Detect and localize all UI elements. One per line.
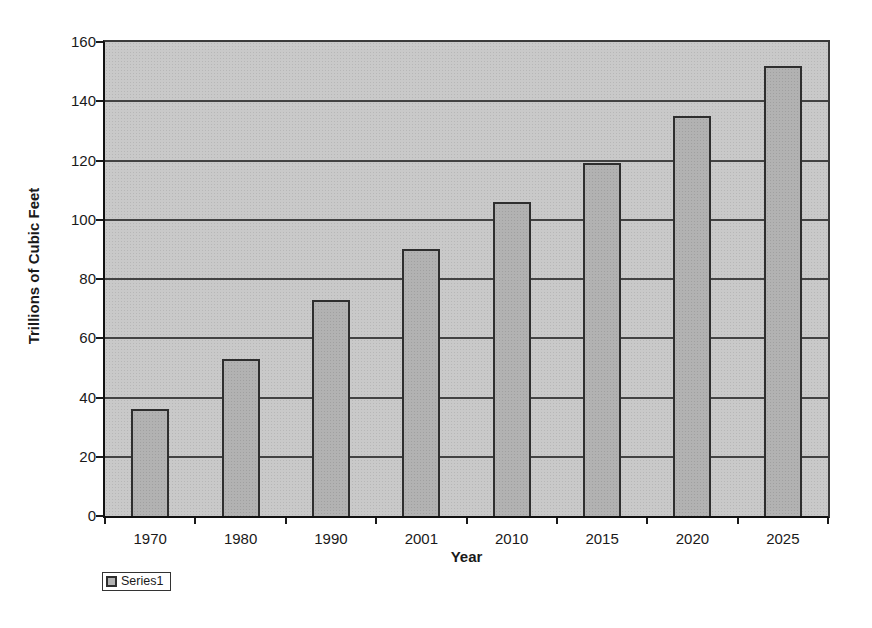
- y-tick-label-20: 20: [38, 449, 96, 465]
- y-tick-label-60: 60: [38, 330, 96, 346]
- x-category-label-2020: 2020: [647, 531, 737, 547]
- y-axis-title: Trillions of Cubic Feet: [25, 188, 42, 345]
- bar-1980: [222, 359, 260, 516]
- y-tick-mark-40: [96, 397, 103, 399]
- y-tick-mark-80: [96, 278, 103, 280]
- x-category-label-2015: 2015: [557, 531, 647, 547]
- x-axis-title: Year: [103, 548, 830, 565]
- y-tick-label-140: 140: [38, 93, 96, 109]
- gridline-y-100: [105, 219, 828, 221]
- y-tick-mark-100: [96, 219, 103, 221]
- gridline-y-140: [105, 100, 828, 102]
- gridline-y-60: [105, 337, 828, 339]
- gridline-y-20: [105, 456, 828, 458]
- y-tick-label-100: 100: [38, 212, 96, 228]
- gridline-y-80: [105, 278, 828, 280]
- y-tick-label-80: 80: [38, 271, 96, 287]
- x-tick-mark-8: [827, 518, 829, 524]
- bar-2001: [402, 249, 440, 516]
- bar-2025: [764, 66, 802, 516]
- bar-2020: [673, 116, 711, 516]
- y-tick-label-160: 160: [38, 34, 96, 50]
- x-category-label-2001: 2001: [376, 531, 466, 547]
- legend-swatch-icon: [106, 576, 117, 587]
- bar-2010: [493, 202, 531, 516]
- plot-area: [103, 40, 830, 518]
- gridline-y-40: [105, 397, 828, 399]
- x-tick-mark-1: [194, 518, 196, 524]
- x-tick-mark-4: [466, 518, 468, 524]
- y-tick-mark-140: [96, 100, 103, 102]
- x-tick-mark-7: [737, 518, 739, 524]
- x-category-label-1980: 1980: [195, 531, 285, 547]
- x-category-label-1970: 1970: [105, 531, 195, 547]
- x-category-label-2010: 2010: [467, 531, 557, 547]
- legend: Series1: [102, 572, 171, 591]
- y-tick-label-40: 40: [38, 390, 96, 406]
- x-tick-mark-6: [646, 518, 648, 524]
- x-tick-mark-2: [285, 518, 287, 524]
- y-tick-label-0: 0: [38, 508, 96, 524]
- x-category-label-1990: 1990: [286, 531, 376, 547]
- y-tick-label-120: 120: [38, 153, 96, 169]
- gridline-y-120: [105, 160, 828, 162]
- bar-2015: [583, 163, 621, 516]
- x-tick-mark-0: [104, 518, 106, 524]
- x-tick-mark-5: [556, 518, 558, 524]
- y-tick-mark-60: [96, 337, 103, 339]
- x-tick-mark-3: [375, 518, 377, 524]
- y-tick-mark-160: [96, 41, 103, 43]
- legend-series-label: Series1: [121, 575, 163, 588]
- x-category-label-2025: 2025: [738, 531, 828, 547]
- bar-1990: [312, 300, 350, 516]
- bar-1970: [131, 409, 169, 516]
- y-tick-mark-120: [96, 160, 103, 162]
- y-tick-mark-0: [96, 515, 103, 517]
- chart-figure: 020406080100120140160 197019801990200120…: [0, 0, 872, 628]
- y-tick-mark-20: [96, 456, 103, 458]
